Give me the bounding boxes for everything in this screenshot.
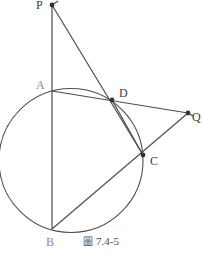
figure-caption-number: 7.4-5 (96, 235, 119, 248)
point-label-C: C (150, 155, 158, 167)
segment-B-Q (52, 113, 188, 229)
point-label-B: B (46, 236, 54, 248)
point-label-P: P (36, 0, 43, 11)
vertex-marker-P (50, 3, 55, 8)
figure-caption: 圖 7.4-5 (83, 235, 119, 248)
vertex-marker-Q (186, 111, 191, 116)
point-label-A: A (36, 79, 45, 91)
geometry-figure: P A D Q C B 圖 7.4-5 (0, 0, 204, 254)
chord-D-C (112, 100, 143, 155)
point-label-Q: Q (192, 111, 201, 123)
point-label-D: D (119, 87, 128, 99)
segment-P-C (52, 5, 143, 155)
vertex-marker-C (141, 153, 146, 158)
vertex-marker-D (110, 98, 115, 103)
main-circle (0, 89, 143, 233)
geometry-canvas (0, 0, 204, 254)
figure-caption-cjk-glyph: 圖 (83, 235, 93, 248)
